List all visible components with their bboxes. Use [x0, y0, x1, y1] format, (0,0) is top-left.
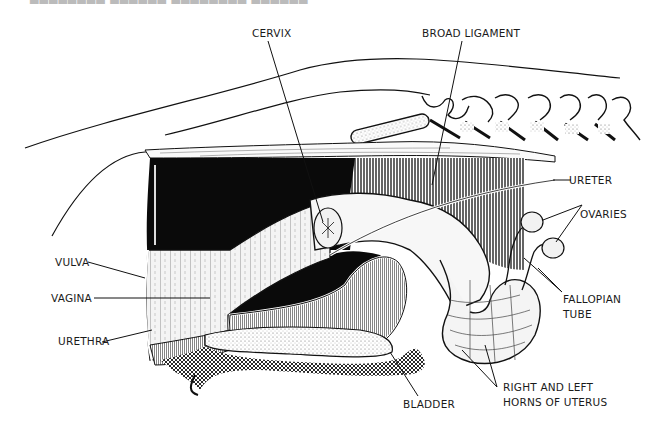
ovary-right	[521, 212, 543, 232]
anatomy-diagram: ████████ ██████ ████████ ██████ CERVIX B…	[0, 0, 666, 432]
label-vagina: VAGINA	[51, 292, 92, 305]
cropped-header-text: ████████ ██████ ████████ ██████	[30, 0, 308, 4]
label-urethra: URETHRA	[58, 335, 109, 348]
pubic-bone	[205, 327, 392, 357]
label-ureter: URETER	[569, 174, 612, 187]
label-fallopian-tube-2: TUBE	[563, 308, 592, 321]
illustration	[0, 0, 666, 432]
label-horns-2: HORNS OF UTERUS	[503, 396, 607, 409]
label-horns-1: RIGHT AND LEFT	[503, 381, 593, 394]
label-broad-ligament: BROAD LIGAMENT	[422, 27, 520, 40]
label-bladder: BLADDER	[403, 398, 455, 411]
label-vulva: VULVA	[55, 256, 89, 269]
label-cervix: CERVIX	[252, 27, 291, 40]
ovary-left	[542, 238, 564, 258]
spine	[349, 95, 640, 146]
label-ovaries: OVARIES	[580, 208, 627, 221]
label-fallopian-tube-1: FALLOPIAN	[563, 293, 621, 306]
